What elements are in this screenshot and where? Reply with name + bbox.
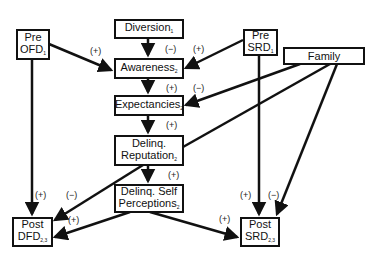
node-family: Family — [283, 47, 365, 65]
label-reputation-self: (+) — [168, 170, 179, 180]
node-diversion: Diversion1 — [114, 19, 184, 39]
label-reputation-postdfd: (−) — [66, 190, 77, 200]
label-diversion-awareness: (−) — [165, 44, 176, 54]
label-presrd-postsrd: (+) — [240, 190, 251, 200]
label-self-postdfd: (+) — [68, 215, 79, 225]
node-post-srd: Post SRD2,3 — [240, 217, 280, 247]
label-expectancies-reputation: (+) — [166, 120, 177, 130]
node-pre-ofd: Pre OFD1 — [16, 29, 50, 60]
label-ofd-postdfd: (+) — [35, 190, 46, 200]
label-family-expectancies: (−) — [193, 83, 204, 93]
node-post-dfd: Post DFD2,3 — [12, 217, 53, 247]
edge-self-postdfd — [55, 212, 130, 237]
node-pre-srd: Pre SRD1 — [243, 29, 278, 56]
node-delinq-self-perceptions: Delinq. Self Perceptions2 — [114, 184, 184, 213]
node-delinq-reputation: Delinq. Reputation2 — [114, 135, 184, 166]
label-ofd-awareness: (+) — [90, 46, 101, 56]
label-awareness-expectancies: (+) — [166, 83, 177, 93]
node-expectancies: Expectancies2 — [114, 95, 184, 116]
label-family-postsrd: (−) — [268, 190, 279, 200]
edge-family-postsrd — [277, 64, 337, 214]
edge-preofd-awareness — [49, 44, 111, 70]
node-awareness: Awareness2 — [114, 58, 184, 79]
label-srd-awareness: (+) — [193, 44, 204, 54]
edges-layer — [0, 0, 378, 261]
label-self-postsrd: (+) — [219, 214, 230, 224]
